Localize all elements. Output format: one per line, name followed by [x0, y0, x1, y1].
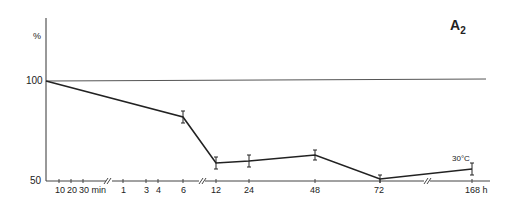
x-tick-label: 48 [310, 185, 320, 195]
y-tick-label: 50 [30, 176, 41, 186]
y-tick-label: 100 [26, 76, 43, 86]
x-tick-label: 12 [211, 185, 221, 195]
x-tick-label: 30 min [79, 185, 106, 195]
panel-label: A2 [450, 20, 466, 36]
x-tick-label: 3 [144, 185, 149, 195]
series-annotation: 30°C [452, 154, 470, 164]
x-tick-label: 72 [374, 185, 384, 195]
x-tick-label: 20 [67, 185, 77, 195]
x-tick-label: 10 [55, 185, 65, 195]
series-line-30c [46, 81, 472, 179]
error-bars [181, 111, 474, 183]
chart-plot [0, 0, 518, 205]
reference-line-100 [46, 79, 486, 81]
x-tick-label: 1 [121, 185, 126, 195]
x-tick-label: 6 [181, 185, 186, 195]
y-axis-unit: % [33, 31, 41, 41]
x-tick-label: 4 [156, 185, 161, 195]
x-tick-label: 168 h [465, 185, 488, 195]
chart: A2 % 100 50 10 20 30 min 1 3 4 6 12 24 4… [0, 0, 518, 205]
x-tick-label: 24 [244, 185, 254, 195]
